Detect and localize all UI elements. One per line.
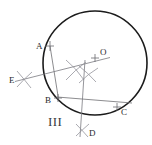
point-label-d: D (89, 128, 96, 138)
figure-numeral-label: III (48, 114, 62, 129)
main-circle (43, 11, 147, 115)
point-tick-c (113, 103, 121, 111)
construction-drawing: A O E B C D III (0, 0, 152, 145)
construction-arc-e2 (17, 72, 32, 87)
point-label-o: O (100, 47, 107, 57)
point-label-b: B (45, 95, 51, 105)
point-label-c: C (121, 107, 127, 117)
geometric-figure-panel: A O E B C D III (0, 0, 152, 145)
chord-segment-bc (57, 97, 132, 103)
point-tick-b (54, 94, 62, 102)
point-label-a: A (36, 41, 43, 51)
construction-arc-b1 (66, 62, 86, 80)
point-label-e: E (9, 75, 15, 85)
construction-arc-b2 (79, 66, 96, 82)
